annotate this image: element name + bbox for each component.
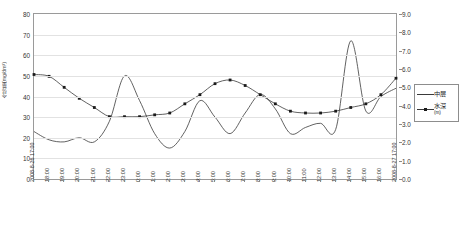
series-marker — [395, 77, 398, 80]
x-axis-tickmark — [350, 179, 351, 182]
y-axis-right-tick: 7.0 — [402, 47, 420, 54]
series-marker — [63, 86, 66, 89]
y-axis-right-tick: 0.0 — [402, 176, 420, 183]
y-axis-right-tickmark — [399, 32, 402, 33]
x-axis-tick-label: 2008-8-26 17:00 — [29, 142, 35, 182]
series-marker — [289, 110, 292, 113]
x-axis-tick-label: 2008-8-27 17:00 — [391, 142, 397, 182]
series-marker — [319, 112, 322, 115]
x-axis-tickmark — [169, 179, 170, 182]
x-axis-tickmark — [365, 179, 366, 182]
y-axis-right-tickmark — [399, 51, 402, 52]
x-axis-tickmark — [93, 179, 94, 182]
series-line-zhongceng — [34, 41, 396, 148]
y-axis-right-tick: 8.0 — [402, 29, 420, 36]
legend-line-marker-icon — [417, 105, 434, 115]
series-marker — [93, 106, 96, 109]
y-axis-left-title: 含沙量(mg/dm³) — [1, 62, 13, 98]
series-marker — [153, 113, 156, 116]
series-marker — [244, 84, 247, 87]
gridline — [34, 97, 396, 98]
y-axis-right-tickmark — [399, 14, 402, 15]
gridline — [34, 117, 396, 118]
x-axis-tickmark — [229, 179, 230, 182]
y-axis-left-tick: 30 — [14, 114, 30, 121]
x-axis-tickmark — [184, 179, 185, 182]
series-marker — [183, 102, 186, 105]
x-axis-tickmark — [289, 179, 290, 182]
x-axis-tickmark — [395, 179, 396, 182]
gridline — [34, 158, 396, 159]
x-axis-tickmark — [63, 179, 64, 182]
series-marker — [229, 79, 232, 82]
y-axis-left: 01020304050607080 — [13, 13, 30, 180]
legend-label-shuishen-unit: (m) — [434, 110, 446, 117]
x-axis-tickmark — [154, 179, 155, 182]
y-axis-right-tickmark — [399, 142, 402, 143]
legend-item-shuishen[interactable]: 水深 (m) — [417, 102, 456, 117]
y-axis-right-tick: 2.0 — [402, 139, 420, 146]
x-axis-tickmark — [78, 179, 79, 182]
legend-label-shuishen: 水深 (m) — [434, 103, 446, 116]
series-marker — [364, 102, 367, 105]
x-axis-tickmark — [48, 179, 49, 182]
y-axis-right-tickmark — [399, 124, 402, 125]
y-axis-left-tick: 70 — [14, 31, 30, 38]
series-marker — [334, 110, 337, 113]
gridline — [34, 138, 396, 139]
legend-item-zhongceng[interactable]: 中层 — [417, 87, 456, 102]
x-axis-tickmark — [274, 179, 275, 182]
x-axis-tickmark — [305, 179, 306, 182]
x-axis-tickmark — [259, 179, 260, 182]
x-axis-tickmark — [124, 179, 125, 182]
chart-legend: 中层 水深 (m) — [414, 84, 459, 122]
legend-label-shuishen-text: 水深 — [434, 102, 446, 109]
y-axis-left-tick: 40 — [14, 93, 30, 100]
y-axis-right-tickmark — [399, 161, 402, 162]
series-marker — [168, 112, 171, 115]
series-marker — [214, 82, 217, 85]
x-axis-labels: 2008-8-26 17:0018:0019:0020:0021:0022:00… — [33, 182, 397, 244]
y-axis-right-tickmark — [399, 87, 402, 88]
series-marker — [304, 112, 307, 115]
chart-container: 含沙量(mg/dm³) 01020304050607080 0.01.02.03… — [0, 0, 462, 244]
x-axis-tickmark — [108, 179, 109, 182]
plot-area — [33, 13, 397, 180]
y-axis-left-tick: 80 — [14, 11, 30, 18]
y-axis-left-tick: 0 — [14, 176, 30, 183]
y-axis-right-tick: 6.0 — [402, 66, 420, 73]
series-marker — [274, 102, 277, 105]
x-axis-tickmark — [380, 179, 381, 182]
y-axis-right-tickmark — [399, 69, 402, 70]
x-axis-tickmark — [214, 179, 215, 182]
x-axis-tickmark — [199, 179, 200, 182]
gridline — [34, 35, 396, 36]
legend-label-zhongceng: 中层 — [434, 91, 446, 98]
y-axis-left-tick: 10 — [14, 155, 30, 162]
y-axis-right-tick: 1.0 — [402, 157, 420, 164]
y-axis-left-tick: 20 — [14, 134, 30, 141]
y-axis-right-tickmark — [399, 106, 402, 107]
gridline — [34, 76, 396, 77]
y-axis-left-tick: 50 — [14, 72, 30, 79]
gridline — [34, 55, 396, 56]
x-axis-tickmark — [244, 179, 245, 182]
y-axis-left-tick: 60 — [14, 52, 30, 59]
x-axis-tickmark — [33, 179, 34, 182]
y-axis-right-tickmark — [399, 179, 402, 180]
x-axis-tickmark — [335, 179, 336, 182]
x-axis-tickmark — [139, 179, 140, 182]
legend-line-icon — [417, 90, 434, 100]
x-axis-tickmark — [320, 179, 321, 182]
y-axis-right-tick: 9.0 — [402, 11, 420, 18]
series-marker — [349, 106, 352, 109]
